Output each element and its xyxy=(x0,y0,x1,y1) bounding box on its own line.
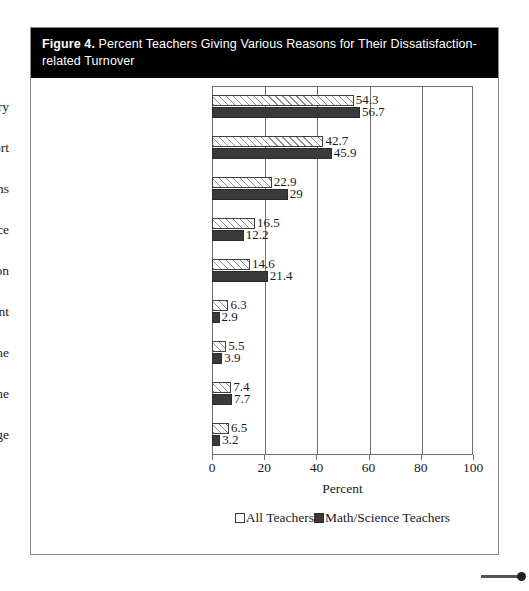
x-tick-label-40: 40 xyxy=(310,460,324,476)
legend-swatch-all-teachers xyxy=(235,513,245,523)
plot-wrapper: Poor Salary54.356.7Poor Administrative S… xyxy=(31,78,498,550)
chart-legend: All Teachers Math/Science Teachers xyxy=(212,510,473,526)
bar-row: Student Discipline Problems22.929 xyxy=(31,168,292,209)
category-label: Poor Salary xyxy=(0,99,9,114)
figure-container: Figure 4. Percent Teachers Giving Variou… xyxy=(30,27,499,555)
category-label: Poor Administrative Support xyxy=(0,140,9,155)
x-tick-label-20: 20 xyxy=(257,460,271,476)
bar-math-science-teachers: 2.9 xyxy=(212,312,220,323)
legend-item-math-science-teachers: Math/Science Teachers xyxy=(314,510,450,526)
legend-label-math-science-teachers: Math/Science Teachers xyxy=(325,510,450,526)
bar-value-label: 45.9 xyxy=(334,145,357,161)
bar-value-label: 3.9 xyxy=(224,350,240,366)
legend-item-all-teachers: All Teachers xyxy=(235,510,314,526)
bar-row: Lack of Faculty Influence16.512.2 xyxy=(31,209,292,250)
category-label: Class Sizes Too Large xyxy=(0,427,9,442)
bar-group: 16.512.2 xyxy=(212,209,473,250)
bar-group: 6.32.9 xyxy=(212,291,473,332)
bar-math-science-teachers: 21.4 xyxy=(212,271,268,282)
bar-row: Poor Administrative Support42.745.9 xyxy=(31,127,292,168)
bar-group: 6.53.2 xyxy=(212,414,473,455)
bar-group: 22.929 xyxy=(212,168,473,209)
bar-row: Class Sizes Too Large6.53.2 xyxy=(31,414,292,455)
x-axis-label: Percent xyxy=(212,481,473,497)
bar-math-science-teachers: 3.2 xyxy=(212,435,220,446)
legend-swatch-math-science-teachers xyxy=(314,513,324,523)
bar-row: Inadequate Time5.53.9 xyxy=(31,332,292,373)
bar-math-science-teachers: 3.9 xyxy=(212,353,222,364)
legend-label-all-teachers: All Teachers xyxy=(246,510,314,526)
bar-value-label: 56.7 xyxy=(362,104,385,120)
x-tick-label-80: 80 xyxy=(414,460,428,476)
bar-group: 5.53.9 xyxy=(212,332,473,373)
bar-group: 42.745.9 xyxy=(212,127,473,168)
x-tick-label-60: 60 xyxy=(362,460,376,476)
bar-math-science-teachers: 12.2 xyxy=(212,230,244,241)
bar-row: Poor Salary54.356.7 xyxy=(31,86,292,127)
bar-value-label: 12.2 xyxy=(246,227,269,243)
bar-math-science-teachers: 45.9 xyxy=(212,148,332,159)
bar-all-teachers: 14.6 xyxy=(212,259,250,270)
bar-math-science-teachers: 29 xyxy=(212,189,288,200)
bar-row: Poor Student Motivation14.621.4 xyxy=(31,250,292,291)
category-label: Poor Opportunity for Advancement xyxy=(0,304,9,319)
bar-row: Poor Opportunity for Advancement6.32.9 xyxy=(31,291,292,332)
bar-group: 7.47.7 xyxy=(212,373,473,414)
category-label: Poor Student Motivation xyxy=(0,263,9,278)
bar-all-teachers: 54.3 xyxy=(212,95,354,106)
category-label: Intrusions on Teaching Time xyxy=(0,386,9,401)
figure-title-text: Percent Teachers Giving Various Reasons … xyxy=(42,37,477,68)
bar-group: 54.356.7 xyxy=(212,86,473,127)
bar-all-teachers: 22.9 xyxy=(212,177,272,188)
bar-group: 14.621.4 xyxy=(212,250,473,291)
category-label: Inadequate Time xyxy=(0,345,9,360)
bar-rows: Poor Salary54.356.7Poor Administrative S… xyxy=(31,86,292,455)
category-label: Lack of Faculty Influence xyxy=(0,222,9,237)
bar-all-teachers: 7.4 xyxy=(212,382,231,393)
x-axis: 020406080100 xyxy=(212,455,473,477)
bar-row: Intrusions on Teaching Time7.47.7 xyxy=(31,373,292,414)
bar-math-science-teachers: 7.7 xyxy=(212,394,232,405)
figure-number: Figure 4. xyxy=(42,37,95,51)
bar-value-label: 21.4 xyxy=(270,268,293,284)
bar-value-label: 2.9 xyxy=(222,309,238,325)
category-label: Student Discipline Problems xyxy=(0,181,9,196)
figure-title-band: Figure 4. Percent Teachers Giving Variou… xyxy=(31,28,498,78)
bar-math-science-teachers: 56.7 xyxy=(212,107,360,118)
bar-all-teachers: 42.7 xyxy=(212,136,323,147)
scan-artifact xyxy=(481,575,521,578)
bar-value-label: 3.2 xyxy=(222,432,238,448)
x-tick-label-0: 0 xyxy=(209,460,216,476)
bar-value-label: 7.7 xyxy=(234,391,250,407)
bar-value-label: 29 xyxy=(290,186,303,202)
x-tick-label-100: 100 xyxy=(463,460,483,476)
